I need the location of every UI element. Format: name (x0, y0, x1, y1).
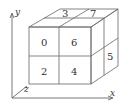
cell-label-0: 0 (41, 37, 47, 48)
z-axis-label: z (23, 84, 29, 94)
cube-diagram: y x z 0 6 2 4 3 7 5 (0, 0, 119, 105)
cell-label-6: 6 (71, 37, 77, 48)
right-horizontal-divider (91, 38, 118, 56)
cube-svg: y x z 0 6 2 4 3 7 5 (0, 0, 119, 105)
cell-label-7: 7 (90, 8, 96, 19)
cell-label-2: 2 (41, 66, 47, 77)
cell-label-3: 3 (62, 8, 68, 19)
cell-label-4: 4 (71, 66, 77, 77)
y-axis-label: y (14, 7, 21, 17)
cell-label-5: 5 (107, 51, 113, 62)
right-face (91, 9, 118, 84)
front-face (29, 27, 91, 84)
x-axis-label: x (110, 88, 115, 98)
